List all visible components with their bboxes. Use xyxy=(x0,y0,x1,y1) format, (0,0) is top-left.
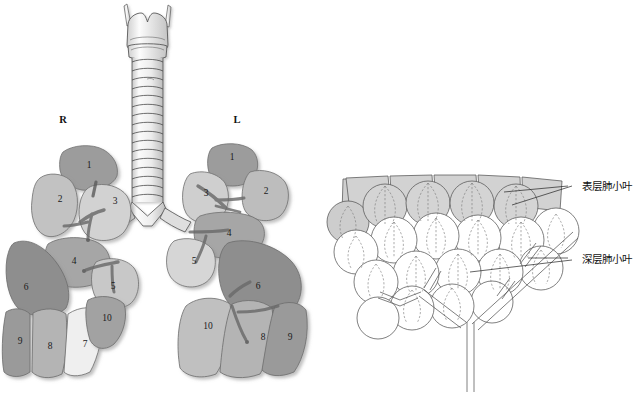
left-segment-label-8: 8 xyxy=(261,332,266,342)
right-segment-label-8: 8 xyxy=(48,341,53,351)
left-segment-label-4: 4 xyxy=(227,228,232,238)
right-segment-3 xyxy=(79,184,131,240)
left-segment-label-6: 6 xyxy=(256,281,261,291)
right-segment-label-1: 1 xyxy=(87,160,92,170)
left-segment-label-1: 1 xyxy=(230,152,235,162)
right-segment-label-9: 9 xyxy=(18,336,23,346)
left-segment-label-2: 2 xyxy=(264,186,269,196)
cricoid-cartilage xyxy=(128,44,167,60)
left-segment-label-10: 10 xyxy=(203,321,213,331)
left-segment-label-5: 5 xyxy=(192,256,197,266)
side-label-right: R xyxy=(59,114,67,125)
label-superficial-lobule: 表层肺小叶 xyxy=(582,180,633,192)
right-segment-label-2: 2 xyxy=(58,194,63,204)
side-label-left: L xyxy=(233,114,240,125)
diagram-canvas: 1 2 3 4 5 6 7 8 9 10 xyxy=(0,0,636,394)
trachea-body xyxy=(132,58,163,202)
right-segment-label-6: 6 xyxy=(24,282,29,292)
deep-lobule-7 xyxy=(519,246,563,290)
label-deep-lobule: 深层肺小叶 xyxy=(582,253,633,265)
right-segment-label-4: 4 xyxy=(72,256,77,266)
right-segment-label-5: 5 xyxy=(111,281,116,291)
right-segment-label-3: 3 xyxy=(113,196,118,206)
right-segment-9 xyxy=(2,309,30,377)
right-segment-label-7: 7 xyxy=(83,339,88,349)
left-segment-label-3: 3 xyxy=(204,188,209,198)
left-segment-label-9: 9 xyxy=(288,332,293,342)
right-segment-label-10: 10 xyxy=(102,313,112,323)
